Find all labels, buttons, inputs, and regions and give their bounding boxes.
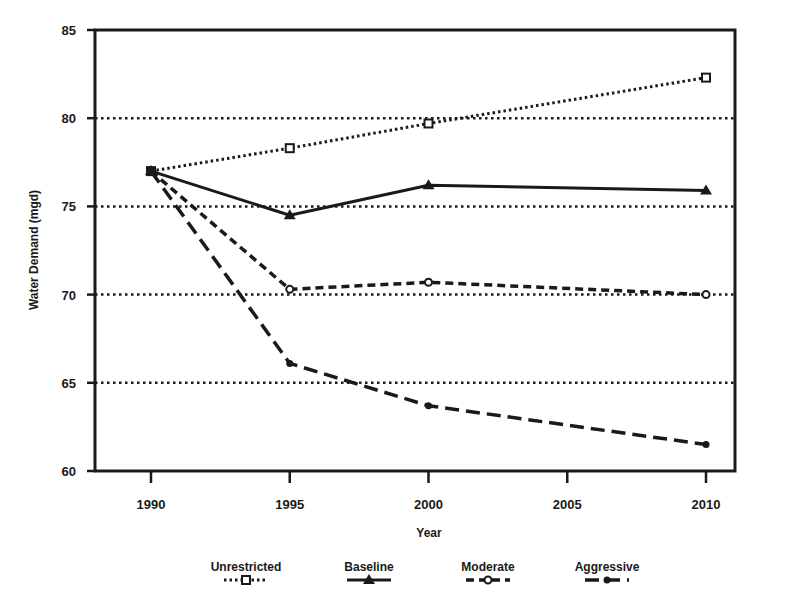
dot-marker (604, 577, 611, 584)
circle-marker (485, 577, 492, 584)
legend: UnrestrictedBaselineModerateAggressive (211, 560, 640, 584)
legend-item-baseline: Baseline (344, 560, 394, 584)
x-axis: 19901995200020052010 (137, 471, 721, 512)
plot-frame (95, 30, 735, 471)
legend-label: Moderate (461, 560, 515, 574)
x-axis-title: Year (416, 526, 442, 540)
square-marker (242, 576, 250, 584)
y-tick-label: 85 (62, 23, 76, 38)
x-tick-label: 2000 (414, 497, 443, 512)
line-chart: 606570758085 19901995200020052010 Water … (0, 0, 787, 609)
y-tick-label: 75 (62, 199, 76, 214)
dot-marker (425, 402, 432, 409)
circle-marker (703, 291, 710, 298)
legend-item-unrestricted: Unrestricted (211, 560, 282, 584)
series-lines (145, 74, 712, 448)
x-tick-label: 2005 (553, 497, 582, 512)
x-tick-label: 1995 (275, 497, 304, 512)
series-baseline (145, 165, 712, 219)
legend-item-aggressive: Aggressive (575, 560, 640, 584)
dot-marker (286, 360, 293, 367)
y-tick-label: 80 (62, 111, 76, 126)
dot-marker (703, 441, 710, 448)
y-axis-title: Water Demand (mgd) (27, 190, 41, 310)
series-unrestricted (147, 74, 710, 175)
legend-label: Aggressive (575, 560, 640, 574)
series-aggressive (148, 168, 710, 448)
y-tick-label: 65 (62, 376, 76, 391)
square-marker (286, 144, 294, 152)
x-tick-label: 2010 (692, 497, 721, 512)
series-line (151, 171, 706, 215)
dot-marker (148, 168, 155, 175)
circle-marker (286, 286, 293, 293)
legend-label: Unrestricted (211, 560, 282, 574)
square-marker (702, 74, 710, 82)
y-axis: 606570758085 (62, 23, 95, 479)
legend-item-moderate: Moderate (461, 560, 515, 584)
circle-marker (425, 279, 432, 286)
square-marker (425, 119, 433, 127)
x-tick-label: 1990 (137, 497, 166, 512)
legend-label: Baseline (344, 560, 394, 574)
y-tick-label: 70 (62, 288, 76, 303)
gridlines (95, 118, 735, 383)
y-tick-label: 60 (62, 464, 76, 479)
